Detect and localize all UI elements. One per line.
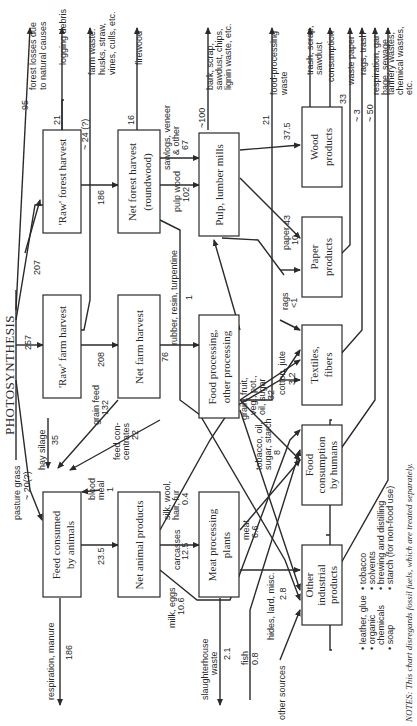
- notes: NOTES: This chart disregards fossil fuel…: [404, 463, 414, 723]
- box-food-processing: [199, 315, 239, 418]
- val-silk: 0.4: [180, 492, 190, 505]
- label-food-humans-3: by humans: [327, 441, 339, 489]
- val-to-wood: 37.5: [282, 122, 292, 140]
- label-food-humans-2: consumption: [315, 436, 327, 493]
- label-raw-farm: 'Raw' farm harvest: [56, 306, 68, 388]
- val-slaughter: 2.1: [222, 647, 232, 660]
- box-meat-processing-plants: [199, 492, 239, 597]
- label-pasture: pasture grass: [12, 465, 22, 520]
- label-food-waste-2: waste: [279, 71, 289, 96]
- label-farm-waste-3: vines, culls, etc.: [107, 11, 117, 75]
- label-wood-1: Wood: [308, 134, 320, 161]
- label-logging-debris: logging debris: [58, 8, 68, 65]
- val-respiration-manure: 186: [64, 645, 74, 660]
- val-milk-eggs: 10.6: [176, 597, 186, 615]
- val-rags: <1: [289, 298, 299, 308]
- val-resp-garbage: ~ 50: [365, 104, 375, 122]
- label-other-ind-2: industrial: [315, 564, 327, 606]
- label-firewood: firewood: [134, 31, 144, 65]
- val-blood-meal: 1: [105, 487, 115, 492]
- val-hides: 2.8: [278, 587, 288, 600]
- label-meat-plants-1: Meat processing: [206, 508, 218, 581]
- label-textiles-2: fibers: [322, 352, 334, 377]
- label-farm-waste-2: husks, straw,: [97, 23, 107, 75]
- label-feed-animals-1: Feed consumed: [50, 510, 62, 579]
- flow-diagram: PHOTOSYNTHESIS 'Raw' forest harvest 'Raw…: [0, 0, 417, 726]
- label-rags-trash: rags, trash: [358, 32, 368, 75]
- val-sawlogs: 67: [180, 140, 190, 150]
- label-textiles-1: Textiles,: [308, 346, 320, 384]
- label-fish: fish: [240, 651, 250, 665]
- label-food-proc-1: Food processing,: [206, 329, 218, 404]
- label-other-ind-1: Other: [303, 572, 315, 597]
- label-forest-losses-2: to natural causes: [38, 21, 48, 90]
- val-carcasses: 12.5: [180, 542, 190, 560]
- label-rubber: rubber, resin, turpentine: [169, 250, 179, 345]
- val-rubber: 1: [184, 295, 194, 300]
- label-consumption: consumption: [326, 31, 336, 82]
- label-feed-conc-2: centrates: [121, 422, 131, 460]
- label-paper-1: Paper: [308, 244, 320, 269]
- label-paper-2: products: [322, 238, 334, 276]
- val-raw-forest-in: 207: [32, 260, 42, 275]
- label-wood-2: products: [322, 128, 334, 166]
- label-farm-waste-1: farm waste:: [87, 28, 97, 75]
- label-tannery-3: etc.: [404, 80, 414, 95]
- val-forest-to-net: 186: [96, 190, 106, 205]
- label-other-ind-3: products: [327, 566, 339, 604]
- val-to-paper: 43: [282, 215, 292, 225]
- val-firewood: 16: [126, 115, 136, 125]
- label-food-waste-1: food-processing: [269, 31, 279, 95]
- label-hides: hides, lard, misc.: [266, 572, 276, 640]
- val-farm-waste: ~ 24 (?): [80, 119, 90, 150]
- val-feed-conc: 22: [130, 430, 140, 440]
- label-feed-animals-2: by animals: [64, 521, 76, 569]
- product-soap: • soap: [385, 625, 395, 650]
- label-tobacco-2: sugar, starch: [263, 418, 273, 470]
- val-fish: 0.8: [250, 652, 260, 665]
- label-net-forest-2: (roundwood): [141, 153, 154, 211]
- val-pulpwood: 102: [181, 187, 191, 202]
- box-net-forest-harvest: [118, 130, 160, 233]
- val-cotton: 3.2: [287, 372, 297, 385]
- diagram-title: PHOTOSYNTHESIS: [2, 315, 17, 435]
- val-grain-feed: 132: [100, 400, 110, 415]
- label-food-proc-2: other processing: [220, 330, 232, 403]
- label-waste-paper: waste paper: [346, 36, 356, 86]
- val-grain: 32: [266, 390, 276, 400]
- val-paper-flow: 10: [290, 235, 300, 245]
- label-forest-losses-1: forest losses due: [28, 22, 38, 90]
- product-starch: • starch (for non-food use): [385, 486, 395, 590]
- val-food-waste: 21: [261, 115, 271, 125]
- val-netfarm-to-food: 76: [160, 352, 170, 362]
- label-net-forest-1: Net forest harvest: [126, 143, 138, 221]
- val-tobacco: 8: [272, 450, 282, 455]
- label-raw-forest: 'Raw' forest harvest: [56, 139, 68, 225]
- label-bark-3: lignin waste, etc.: [223, 23, 233, 90]
- label-slaughter-2: waste: [209, 651, 219, 676]
- label-pulp-mills: Pulp, lumber mills: [213, 144, 225, 226]
- val-pasture: ~ 20(?): [22, 471, 32, 500]
- label-meat-plants-2: plants: [220, 532, 232, 558]
- val-feed-to-animal: 23.5: [96, 547, 106, 565]
- label-other-sources: other sources: [277, 665, 287, 720]
- label-food-humans-1: Food: [303, 453, 315, 476]
- val-bark: ~100: [197, 108, 207, 128]
- val-raw-farm-in: 257: [23, 335, 33, 350]
- val-hay-silage: 35: [50, 435, 60, 445]
- val-waste-paper: 33: [338, 94, 348, 104]
- val-logging-debris: 21: [52, 115, 62, 125]
- val-farm-to-net: 208: [96, 352, 106, 367]
- val-meat: 6.6: [250, 525, 260, 538]
- label-trash-2: sawdust: [314, 41, 324, 75]
- label-respiration-manure: respiration, manure: [46, 622, 56, 700]
- label-hay-silage: hay silage: [37, 429, 47, 470]
- label-net-farm: Net farm harvest: [133, 310, 145, 384]
- label-cotton: cotton, jute: [277, 351, 287, 395]
- label-net-animal: Net animal products: [133, 500, 145, 589]
- val-rags-trash: ~ 3: [352, 109, 362, 122]
- val-forest-losses: 95: [20, 100, 30, 110]
